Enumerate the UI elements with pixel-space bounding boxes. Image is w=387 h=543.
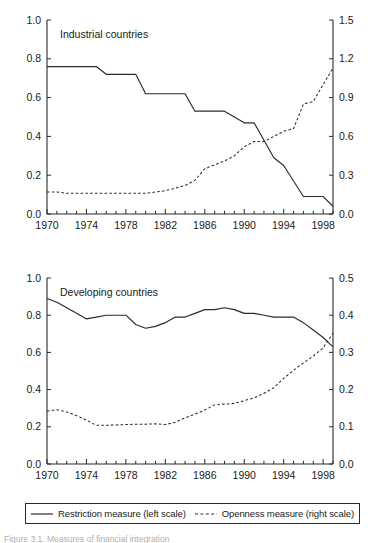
- svg-text:1986: 1986: [193, 469, 217, 481]
- series-line-restriction: [47, 67, 333, 207]
- svg-text:0.3: 0.3: [339, 346, 354, 358]
- svg-text:1.0: 1.0: [26, 14, 41, 26]
- svg-text:0.2: 0.2: [26, 420, 41, 432]
- svg-text:0.0: 0.0: [339, 458, 354, 470]
- solid-line-icon: [31, 510, 53, 518]
- svg-text:1990: 1990: [233, 469, 257, 481]
- svg-text:0.9: 0.9: [339, 91, 354, 103]
- svg-text:0.8: 0.8: [26, 309, 41, 321]
- legend-label-openness: Openness measure (right scale): [222, 508, 354, 519]
- svg-text:0.2: 0.2: [339, 383, 354, 395]
- dashed-line-icon: [195, 510, 217, 518]
- svg-text:1994: 1994: [272, 469, 296, 481]
- figure-caption: Figure 3.1. Measures of financial integr…: [4, 534, 384, 543]
- svg-text:0.6: 0.6: [26, 346, 41, 358]
- panel-title: Developing countries: [60, 286, 158, 298]
- svg-text:1970: 1970: [35, 469, 59, 481]
- svg-text:0.1: 0.1: [339, 420, 354, 432]
- svg-text:0.4: 0.4: [26, 383, 41, 395]
- figure-legend: Restriction measure (left scale) Opennes…: [25, 503, 360, 524]
- svg-text:1978: 1978: [114, 469, 138, 481]
- svg-text:1970: 1970: [35, 219, 59, 231]
- panel-title: Industrial countries: [60, 28, 148, 40]
- svg-text:1.0: 1.0: [26, 272, 41, 284]
- svg-text:0.0: 0.0: [339, 208, 354, 220]
- svg-text:1986: 1986: [193, 219, 217, 231]
- plot-area-bottom: 0.00.20.40.60.81.00.00.10.20.30.40.51970…: [0, 258, 387, 500]
- svg-text:1974: 1974: [75, 469, 99, 481]
- svg-text:1.5: 1.5: [339, 14, 354, 26]
- svg-text:1994: 1994: [272, 219, 296, 231]
- legend-label-restriction: Restriction measure (left scale): [58, 508, 186, 519]
- svg-text:0.2: 0.2: [26, 169, 41, 181]
- svg-text:0.0: 0.0: [26, 208, 41, 220]
- series-line-restriction: [47, 298, 333, 346]
- svg-text:1974: 1974: [75, 219, 99, 231]
- svg-text:1978: 1978: [114, 219, 138, 231]
- svg-text:1982: 1982: [154, 469, 178, 481]
- svg-text:0.4: 0.4: [339, 309, 354, 321]
- chart-panel-developing-countries: 0.00.20.40.60.81.00.00.10.20.30.40.51970…: [0, 258, 387, 500]
- svg-text:1.2: 1.2: [339, 52, 354, 64]
- legend-entry-restriction: Restriction measure (left scale): [31, 508, 186, 519]
- svg-text:0.6: 0.6: [339, 130, 354, 142]
- series-line-openness: [47, 333, 333, 425]
- svg-text:0.6: 0.6: [26, 91, 41, 103]
- series-line-openness: [47, 68, 333, 193]
- chart-panel-industrial-countries: 0.00.20.40.60.81.00.00.30.60.91.21.51970…: [0, 0, 387, 250]
- svg-text:0.0: 0.0: [26, 458, 41, 470]
- svg-text:0.3: 0.3: [339, 169, 354, 181]
- svg-text:1990: 1990: [233, 219, 257, 231]
- financial-integration-figure: 0.00.20.40.60.81.00.00.30.60.91.21.51970…: [0, 0, 387, 543]
- svg-text:1998: 1998: [311, 219, 335, 231]
- svg-text:1982: 1982: [154, 219, 178, 231]
- svg-text:0.8: 0.8: [26, 52, 41, 64]
- svg-text:1998: 1998: [311, 469, 335, 481]
- legend-entry-openness: Openness measure (right scale): [195, 508, 354, 519]
- svg-text:0.5: 0.5: [339, 272, 354, 284]
- svg-text:0.4: 0.4: [26, 130, 41, 142]
- plot-area-top: 0.00.20.40.60.81.00.00.30.60.91.21.51970…: [0, 0, 387, 250]
